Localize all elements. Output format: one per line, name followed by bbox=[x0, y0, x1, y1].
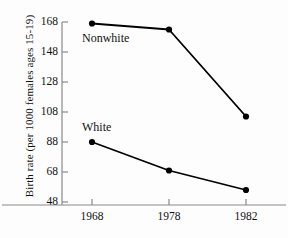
data-point-marker bbox=[166, 167, 172, 173]
data-point-marker bbox=[166, 26, 172, 32]
series-nonwhite bbox=[89, 20, 249, 119]
data-series-group bbox=[89, 20, 249, 193]
data-point-marker bbox=[89, 20, 95, 26]
series-line bbox=[92, 24, 246, 117]
birth-rate-line-chart: Birth rate (per 1000 females ages 15-19)… bbox=[0, 0, 288, 238]
data-point-marker bbox=[243, 187, 249, 193]
y-axis-ticks bbox=[62, 22, 68, 202]
series-line bbox=[92, 142, 246, 190]
x-axis-ticks bbox=[92, 199, 246, 205]
data-point-marker bbox=[243, 113, 249, 119]
data-point-marker bbox=[89, 139, 95, 145]
plot-area bbox=[0, 0, 288, 238]
series-white bbox=[89, 139, 249, 193]
